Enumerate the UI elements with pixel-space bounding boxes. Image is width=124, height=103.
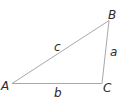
side-a-label: a [110, 45, 117, 59]
triangle-diagram: A B C a b c [0, 0, 124, 103]
side-a-line [102, 21, 109, 84]
vertex-a-label: A [0, 79, 9, 93]
side-c-label: c [54, 40, 61, 54]
side-b-label: b [54, 86, 62, 100]
vertex-b-label: B [108, 8, 116, 22]
vertex-c-label: C [103, 81, 112, 95]
